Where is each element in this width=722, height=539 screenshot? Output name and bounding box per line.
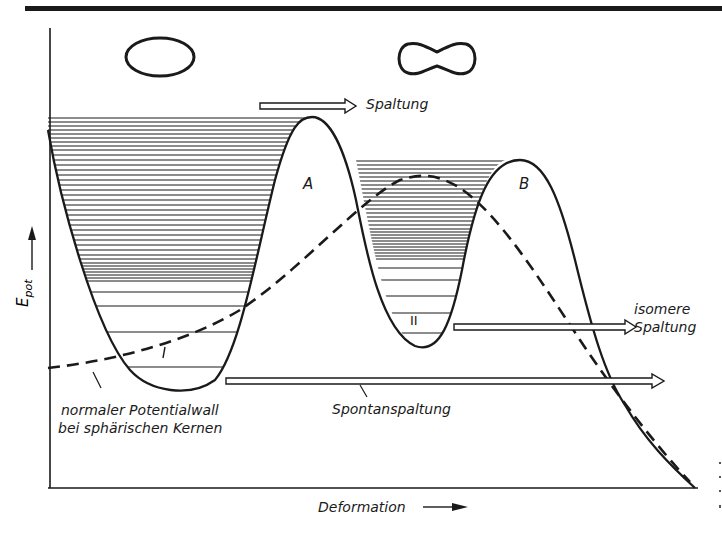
fission-barrier-diagram xyxy=(0,0,722,539)
annotation-line1: normaler Potentialwall xyxy=(61,403,219,417)
spaltung-arrow-icon xyxy=(260,99,356,113)
top-rule xyxy=(25,6,722,11)
isomere-spaltung-label: Spaltung xyxy=(634,320,696,334)
barrier-A-label: A xyxy=(303,177,313,192)
isomere-label: isomere xyxy=(634,302,690,316)
edge-marks xyxy=(719,462,721,508)
x-axis-label: Deformation xyxy=(318,500,406,514)
annotation-line2: bei sphärischen Kernen xyxy=(58,421,222,435)
spherical-nucleus-icon xyxy=(126,38,194,76)
spontanspaltung-leader xyxy=(360,385,367,397)
isomere-spaltung-arrow-icon xyxy=(454,320,636,334)
well-I-hatching xyxy=(48,118,320,367)
annotation-leader xyxy=(93,372,101,388)
deformed-nucleus-icon xyxy=(399,43,475,73)
x-axis-arrow-icon xyxy=(423,503,468,511)
y-axis-label: Epot xyxy=(14,279,35,307)
spaltung-label: Spaltung xyxy=(366,97,428,111)
well-II-label: II xyxy=(410,314,418,327)
well-I-mark xyxy=(163,347,165,358)
y-axis-arrow-icon xyxy=(28,226,36,270)
barrier-B-label: B xyxy=(519,177,529,192)
spontanspaltung-arrow-icon xyxy=(226,374,664,388)
spontanspaltung-label: Spontanspaltung xyxy=(332,402,451,416)
